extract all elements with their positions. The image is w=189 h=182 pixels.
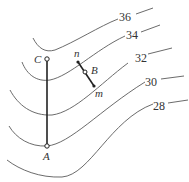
point-a: [45, 144, 49, 148]
contour-30: [9, 82, 145, 146]
point-c: [45, 57, 49, 61]
label-m: m: [95, 87, 103, 99]
contour-28: [7, 104, 153, 177]
contour-diagram: 36 34 32 30 28 C A n B m: [0, 0, 189, 182]
contour-label-36: 36: [119, 10, 131, 24]
contour-label-28: 28: [153, 99, 165, 113]
point-n: [76, 60, 79, 63]
contour-30-tail: [161, 76, 184, 79]
point-b: [83, 70, 87, 74]
label-n: n: [74, 47, 80, 59]
contour-34-tail: [141, 25, 160, 32]
label-c: C: [34, 53, 42, 65]
contour-label-30: 30: [145, 75, 157, 89]
contour-32-tail: [148, 48, 172, 54]
contour-label-32: 32: [135, 51, 147, 65]
contour-36-tail: [136, 8, 153, 14]
contour-32: [10, 63, 128, 115]
contour-28-tail: [168, 100, 188, 103]
label-a: A: [42, 150, 50, 162]
contour-label-34: 34: [126, 28, 138, 42]
label-b: B: [91, 64, 98, 76]
